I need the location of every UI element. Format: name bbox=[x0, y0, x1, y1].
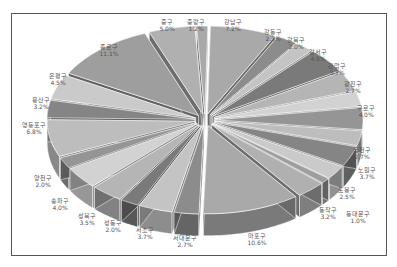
slice-label: 서초구3.7% bbox=[136, 226, 154, 240]
slice-label-percent: 4.0% bbox=[51, 204, 69, 211]
slice-label: 강북구2.0% bbox=[287, 36, 305, 50]
slice-label-percent: 1.0% bbox=[346, 217, 370, 224]
slice-label-name: 성동구 bbox=[104, 219, 122, 226]
slice-label-name: 광진구 bbox=[344, 80, 362, 87]
slice-label: 동작구3.2% bbox=[319, 206, 337, 220]
slice-label-percent: 10.6% bbox=[247, 239, 266, 246]
pie-chart-3d bbox=[0, 0, 397, 267]
slice-label-name: 종로구 bbox=[99, 43, 118, 50]
slice-label: 종로구11.1% bbox=[99, 43, 118, 57]
slice-label-name: 은평구 bbox=[49, 72, 67, 79]
slice-label-percent: 2.7% bbox=[173, 241, 197, 248]
slice-label-name: 도봉구 bbox=[338, 186, 356, 193]
slice-label-name: 구로구 bbox=[357, 104, 375, 111]
slice-label-name: 노원구 bbox=[358, 166, 376, 173]
slice-label: 광진구2.7% bbox=[344, 80, 362, 94]
slice-label: 노원구3.7% bbox=[358, 166, 376, 180]
slice-label-name: 동대문구 bbox=[346, 210, 370, 217]
slice-label-percent: 3.5% bbox=[78, 219, 96, 226]
slice-label-percent: 2.5% bbox=[338, 193, 356, 200]
slice-label-name: 영등포구 bbox=[22, 121, 46, 128]
slice-label: 양천구2.0% bbox=[34, 174, 52, 188]
slice-label-name: 송파구 bbox=[51, 197, 69, 204]
slice-label: 강동구2.3% bbox=[264, 28, 282, 42]
slice-label-name: 용산구 bbox=[32, 96, 50, 103]
slice-label: 관악구3.7% bbox=[328, 62, 346, 76]
slice-label-percent: 2.0% bbox=[287, 43, 305, 50]
slice-label-percent: 11.1% bbox=[99, 50, 118, 57]
slice-label-percent: 5.0% bbox=[159, 25, 174, 32]
slice-label-percent: 2.7% bbox=[344, 87, 362, 94]
slice-label-name: 강북구 bbox=[287, 36, 305, 43]
slice-label-percent: 6.8% bbox=[22, 128, 46, 135]
slice-label-percent: 4.5% bbox=[49, 79, 67, 86]
slice-label-name: 동작구 bbox=[319, 206, 337, 213]
slice-label-percent: 3.2% bbox=[319, 213, 337, 220]
slice-label: 중구5.0% bbox=[159, 18, 174, 32]
slice-label: 용산구3.2% bbox=[32, 96, 50, 110]
slice-label-percent: 3.7% bbox=[136, 233, 154, 240]
slice-label-name: 강남구 bbox=[224, 18, 242, 25]
slice-label: 마포구10.6% bbox=[247, 232, 266, 246]
slice-label-name: 서대문구 bbox=[173, 234, 197, 241]
slice-label-percent: 3.7% bbox=[358, 173, 376, 180]
slice-label-name: 마포구 bbox=[247, 232, 266, 239]
slice-label: 성북구3.5% bbox=[78, 212, 96, 226]
slice-label-percent: 2.0% bbox=[34, 181, 52, 188]
slice-label-percent: 3.2% bbox=[32, 103, 50, 110]
slice-label: 중랑구1.2% bbox=[187, 18, 205, 32]
slice-label-name: 강서구 bbox=[309, 48, 327, 55]
slice-label-name: 금천구 bbox=[353, 146, 371, 153]
slice-label: 강남구7.2% bbox=[224, 18, 242, 32]
slice-label-name: 강동구 bbox=[264, 28, 282, 35]
slice-label: 서대문구2.7% bbox=[173, 234, 197, 248]
slice-label-name: 서초구 bbox=[136, 226, 154, 233]
slice-label-percent: 2.7% bbox=[353, 153, 371, 160]
slice-label: 도봉구2.5% bbox=[338, 186, 356, 200]
slice-label-name: 중구 bbox=[159, 18, 174, 25]
slice-label-percent: 1.2% bbox=[187, 25, 205, 32]
slice-label-percent: 4.5% bbox=[309, 55, 327, 62]
slice-label-percent: 4.0% bbox=[357, 111, 375, 118]
slice-label: 동대문구1.0% bbox=[346, 210, 370, 224]
slice-label-percent: 7.2% bbox=[224, 25, 242, 32]
slice-label: 구로구4.0% bbox=[357, 104, 375, 118]
slice-label-name: 관악구 bbox=[328, 62, 346, 69]
slice-label-name: 양천구 bbox=[34, 174, 52, 181]
slice-label-percent: 3.7% bbox=[328, 69, 346, 76]
slice-label: 은평구4.5% bbox=[49, 72, 67, 86]
slice-label-name: 중랑구 bbox=[187, 18, 205, 25]
slice-label-name: 성북구 bbox=[78, 212, 96, 219]
slice-label: 송파구4.0% bbox=[51, 197, 69, 211]
slice-label-percent: 2.0% bbox=[104, 226, 122, 233]
slice-label: 강서구4.5% bbox=[309, 48, 327, 62]
slice-label: 성동구2.0% bbox=[104, 219, 122, 233]
slice-label-percent: 2.3% bbox=[264, 35, 282, 42]
slice-label: 영등포구6.8% bbox=[22, 121, 46, 135]
slice-label: 금천구2.7% bbox=[353, 146, 371, 160]
